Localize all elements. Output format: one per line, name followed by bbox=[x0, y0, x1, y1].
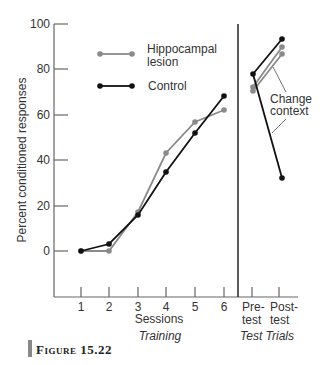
figure-caption: Figure 15.22 bbox=[36, 342, 112, 358]
legend: Hippocampal lesion Control bbox=[97, 42, 217, 93]
caption-bar bbox=[28, 340, 32, 357]
svg-text:100: 100 bbox=[30, 17, 50, 31]
chart: 100 80 60 40 20 0 Percent conditioned re… bbox=[0, 0, 322, 365]
change-context-annotation: Change context bbox=[270, 67, 312, 133]
svg-text:test: test bbox=[270, 313, 290, 327]
svg-text:Hippocampal: Hippocampal bbox=[147, 42, 217, 56]
training-label: Training bbox=[139, 329, 182, 343]
y-ticks bbox=[54, 24, 68, 251]
svg-text:lesion: lesion bbox=[147, 55, 178, 69]
legend-control: Control bbox=[97, 79, 186, 93]
svg-text:80: 80 bbox=[37, 62, 51, 76]
series-lesion-test bbox=[250, 44, 285, 94]
y-axis-title: Percent conditioned responses bbox=[15, 78, 29, 243]
svg-text:20: 20 bbox=[37, 199, 51, 213]
series-lesion-training bbox=[78, 107, 227, 254]
svg-text:1: 1 bbox=[78, 300, 85, 314]
y-tick-labels: 100 80 60 40 20 0 bbox=[30, 17, 50, 258]
test-tick-labels: Pre- test Post- test bbox=[242, 300, 298, 327]
x-ticks bbox=[81, 287, 279, 297]
x-axis-title: Sessions bbox=[135, 312, 184, 326]
svg-text:6: 6 bbox=[221, 300, 228, 314]
legend-lesion: Hippocampal lesion bbox=[97, 42, 217, 69]
svg-text:60: 60 bbox=[37, 108, 51, 122]
svg-text:Control: Control bbox=[148, 79, 187, 93]
svg-text:Post-: Post- bbox=[270, 300, 298, 314]
svg-text:Pre-: Pre- bbox=[242, 300, 265, 314]
svg-text:5: 5 bbox=[192, 300, 199, 314]
svg-text:test: test bbox=[242, 313, 262, 327]
svg-text:2: 2 bbox=[106, 300, 113, 314]
svg-text:40: 40 bbox=[37, 153, 51, 167]
svg-text:context: context bbox=[270, 104, 309, 118]
test-trials-label: Test Trials bbox=[240, 329, 294, 343]
svg-text:0: 0 bbox=[43, 244, 50, 258]
